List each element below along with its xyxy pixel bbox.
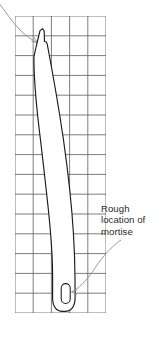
mortise-annotation-text: Rough location of mortise — [101, 203, 145, 237]
top-leader-curve — [0, 2, 38, 43]
mortise-annotation-line-1: Rough — [101, 203, 145, 214]
mortise-oval — [61, 284, 70, 304]
mortise-annotation-line-2: location of — [101, 214, 145, 225]
mortise-oval-shape — [61, 284, 70, 304]
figure-container: Rough location of mortise — [0, 0, 158, 338]
mortise-annotation-line-3: mortise — [101, 226, 145, 237]
top-leader-line — [0, 2, 38, 43]
blank-outline-path — [34, 29, 75, 312]
technical-drawing-svg — [0, 0, 158, 338]
blank-outline — [34, 29, 75, 312]
mortise-leader-line — [71, 240, 121, 295]
mortise-leader-curve — [73, 240, 121, 291]
